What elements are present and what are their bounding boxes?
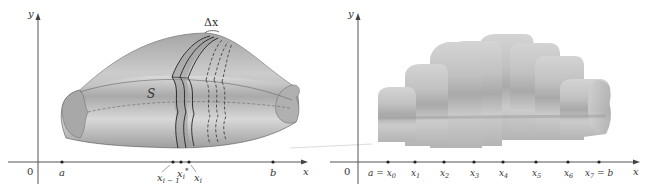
- slabs: [378, 34, 611, 148]
- tick-x4: x4: [499, 168, 508, 180]
- tick-x2: x2: [440, 168, 449, 180]
- left-origin-label: 0: [27, 166, 33, 177]
- left-panel: Δx y x 0 S a xi − 1 xi* xi b: [8, 8, 309, 185]
- right-y-arrow-icon: [356, 13, 361, 20]
- left-x-arrow-icon: [301, 160, 308, 165]
- tick-x-i: xi: [194, 172, 202, 185]
- tick-x5: x5: [532, 168, 541, 180]
- right-y-axis-label: y: [347, 8, 354, 19]
- connector-line: [290, 144, 372, 148]
- tick-b: b: [270, 167, 276, 178]
- right-x-arrow-icon: [633, 160, 640, 165]
- tick-x-i-star: xi*: [177, 167, 189, 181]
- tick-x3: x3: [470, 168, 479, 180]
- left-y-axis-label: y: [27, 8, 34, 19]
- riemann-surface-diagram: Δx y x 0 S a xi − 1 xi* xi b: [0, 0, 651, 193]
- right-x-axis-label: x: [633, 166, 639, 177]
- delta-x-label: Δx: [204, 16, 219, 29]
- delta-x-brace: [205, 31, 219, 33]
- tick-x0: a = x0: [368, 168, 396, 180]
- left-x-axis-label: x: [303, 166, 309, 177]
- right-origin-label: 0: [344, 166, 350, 177]
- tick-x1: x1: [411, 168, 420, 180]
- right-panel: y x 0 a = x0 x1 x2 x3 x4 x5 x6 x7 = b: [330, 8, 640, 184]
- tick-x7: x7 = b: [585, 168, 613, 180]
- surface-label: S: [147, 87, 155, 101]
- tick-x6: x6: [564, 168, 573, 180]
- tick-a: a: [59, 167, 65, 178]
- left-y-arrow-icon: [36, 13, 41, 20]
